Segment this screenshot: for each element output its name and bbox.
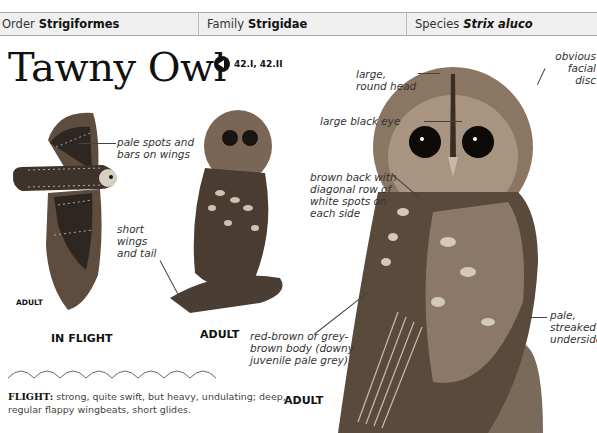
family-value: Strigidae <box>248 17 307 31</box>
species-value: Strix aluco <box>463 17 532 31</box>
annotation-black-eye: large black eye <box>320 115 420 127</box>
leader-line <box>525 317 547 318</box>
leader-line <box>424 121 462 122</box>
order-value: Strigiformes <box>39 17 120 31</box>
flying-owl-illustration <box>8 105 120 315</box>
annotation-brown-back: brown back with diagonal row of white sp… <box>310 171 402 219</box>
annotation-round-head: large, round head <box>356 68 418 92</box>
perched-owl-small-illustration <box>150 108 300 318</box>
flight-caption: IN FLIGHT <box>51 332 112 345</box>
leader-line <box>418 73 440 74</box>
flight-heading: FLIGHT: <box>8 391 53 402</box>
order-label: Order <box>2 17 35 31</box>
audio-reference[interactable]: 42.I, 42.II <box>214 56 283 72</box>
order-cell: Order Strigiformes <box>0 13 198 35</box>
family-label: Family <box>207 17 244 31</box>
page-title: Tawny Owl <box>8 44 226 90</box>
species-label: Species <box>415 17 459 31</box>
taxonomy-bar: Order Strigiformes Family Strigidae Spec… <box>0 12 597 36</box>
family-cell: Family Strigidae <box>198 13 406 35</box>
annotation-body-color: red-brown or grey-brown body (downy juve… <box>250 330 360 366</box>
audio-track-codes: 42.I, 42.II <box>234 59 283 69</box>
annotation-underside: pale, streaked underside <box>550 309 596 345</box>
species-cell: Species Strix aluco <box>406 13 597 35</box>
flight-description: FLIGHT: strong, quite swift, but heavy, … <box>8 390 298 416</box>
flight-age-label: ADULT <box>16 298 43 307</box>
flight-pattern-wave <box>8 366 220 382</box>
speaker-icon[interactable] <box>214 56 230 72</box>
perched-small-caption: ADULT <box>200 328 239 341</box>
leader-line <box>78 143 116 144</box>
annotation-facial-disc: obvious facial disc <box>546 50 596 86</box>
